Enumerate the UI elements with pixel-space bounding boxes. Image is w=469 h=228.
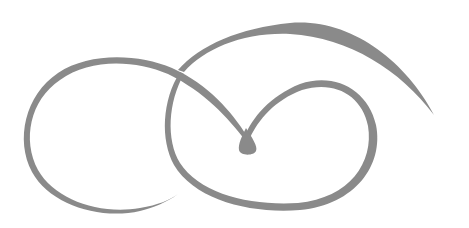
flourish-svg [0, 0, 469, 228]
swirl-flourish-ornament: Decorative calligraphic swirl flourish o… [0, 0, 469, 228]
inner-right-loop [165, 72, 377, 211]
